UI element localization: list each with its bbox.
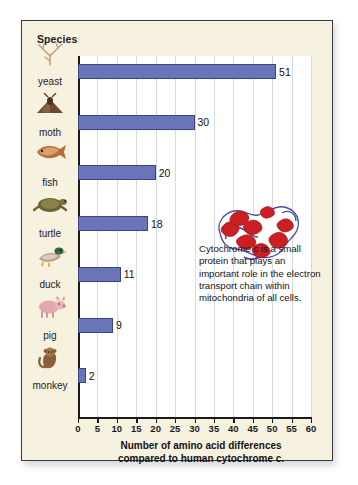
x-axis-tick-label: 15 <box>131 423 142 434</box>
bar-value-fish: 20 <box>159 167 171 179</box>
caption-line: important role in the electron <box>199 268 323 280</box>
bar-yeast <box>78 64 276 79</box>
x-axis-tick-label: 25 <box>170 423 181 434</box>
monkey-icon <box>24 346 76 372</box>
bar-value-monkey: 2 <box>89 370 95 382</box>
x-axis-tick-label: 0 <box>75 423 80 434</box>
figure-card: Species 05101520253035404550556051yeast3… <box>21 20 333 461</box>
caption-line: mitochondria of all cells. <box>199 292 323 304</box>
bar-duck <box>78 267 121 282</box>
bar-value-turtle: 18 <box>151 218 163 230</box>
caption-line: Cytochrome c is a small <box>199 243 323 255</box>
caption-line: transport chain within <box>199 280 323 292</box>
gridline <box>156 56 157 418</box>
x-axis-tick-label: 55 <box>286 423 297 434</box>
bar-moth <box>78 115 195 130</box>
pig-icon <box>24 296 76 322</box>
bar-value-pig: 9 <box>116 319 122 331</box>
bar-value-duck: 11 <box>124 268 135 280</box>
moth-icon <box>24 93 76 119</box>
species-label-moth: moth <box>24 127 76 138</box>
x-axis-tick-label: 50 <box>267 423 278 434</box>
species-label-fish: fish <box>24 177 76 188</box>
gridline <box>117 56 118 418</box>
x-axis-tick-label: 10 <box>112 423 123 434</box>
x-axis-tick-label: 45 <box>247 423 258 434</box>
bar-turtle <box>78 216 148 231</box>
x-axis-tick-label: 35 <box>209 423 220 434</box>
figure-page: Species 05101520253035404550556051yeast3… <box>0 0 358 485</box>
species-label-pig: pig <box>24 330 76 341</box>
bar-pig <box>78 318 113 333</box>
caption-text: Cytochrome c is a smallprotein that play… <box>199 243 323 304</box>
x-axis-tick-label: 40 <box>228 423 239 434</box>
bar-value-yeast: 51 <box>279 66 291 78</box>
x-axis-title: Number of amino acid differences compare… <box>78 439 324 465</box>
species-label-monkey: monkey <box>24 380 76 391</box>
fish-icon <box>24 143 76 169</box>
yeast-icon <box>24 42 76 68</box>
x-axis-title-line2: compared to human cytochrome c. <box>78 452 324 465</box>
gridline <box>97 56 98 418</box>
y-axis-line <box>78 56 80 418</box>
gridline <box>136 56 137 418</box>
x-axis-tick-label: 20 <box>150 423 161 434</box>
species-label-duck: duck <box>24 279 76 290</box>
species-label-yeast: yeast <box>24 76 76 87</box>
duck-icon <box>24 245 76 271</box>
species-label-turtle: turtle <box>24 228 76 239</box>
turtle-icon <box>24 194 76 220</box>
x-axis-tick-label: 30 <box>189 423 200 434</box>
x-axis-tick-label: 5 <box>95 423 100 434</box>
gridline <box>311 56 312 418</box>
bar-fish <box>78 165 156 180</box>
bar-monkey <box>78 368 86 383</box>
x-axis-title-line1: Number of amino acid differences <box>78 439 324 452</box>
bar-value-moth: 30 <box>198 116 210 128</box>
caption-line: protein that plays an <box>199 255 323 267</box>
gridline <box>175 56 176 418</box>
gridline <box>195 56 196 418</box>
x-axis-tick-label: 60 <box>306 423 317 434</box>
